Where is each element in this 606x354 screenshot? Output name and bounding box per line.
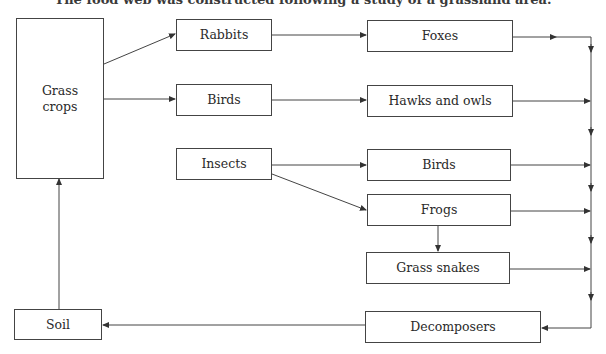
- node-grass-snakes: Grass snakes: [366, 252, 510, 284]
- node-rabbits: Rabbits: [176, 19, 272, 51]
- node-grass-crops: Grass crops: [16, 18, 104, 179]
- node-birds-secondary: Birds: [367, 149, 511, 181]
- arrow-insects-frogs: [272, 174, 366, 210]
- node-soil: Soil: [14, 309, 102, 340]
- node-birds-primary: Birds: [176, 84, 272, 116]
- node-grass-crops-line1: Grass: [42, 83, 78, 99]
- node-frogs: Frogs: [367, 194, 511, 226]
- node-decomposers: Decomposers: [365, 311, 541, 343]
- node-insects: Insects: [176, 148, 272, 180]
- node-foxes: Foxes: [367, 20, 513, 52]
- node-grass-crops-line2: crops: [43, 99, 78, 115]
- node-hawks-owls: Hawks and owls: [367, 85, 513, 117]
- arrow-grass-rabbits: [104, 34, 175, 64]
